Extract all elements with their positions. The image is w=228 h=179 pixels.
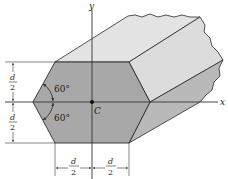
dim-bottom-left-num: d	[71, 157, 76, 166]
dim-bottom-right-den: 2	[108, 168, 113, 177]
angle-label-lower: 60°	[54, 113, 70, 123]
y-axis-label: y	[88, 1, 95, 11]
angle-label-upper: 60°	[54, 84, 70, 94]
dim-left-lower-den: 2	[10, 123, 15, 132]
dim-left-upper-num: d	[10, 73, 15, 82]
dim-left-lower-num: d	[10, 113, 15, 122]
hexagonal-prism-figure: y x C 60° 60° d 2 d 2 d 2 d 2	[0, 0, 228, 179]
centroid-label: C	[94, 106, 101, 116]
dim-bottom-left-den: 2	[71, 168, 76, 177]
dim-bottom-right-num: d	[108, 157, 113, 166]
centroid-point	[90, 100, 94, 104]
dim-left-upper-den: 2	[10, 83, 15, 92]
x-axis-label: x	[220, 97, 225, 107]
